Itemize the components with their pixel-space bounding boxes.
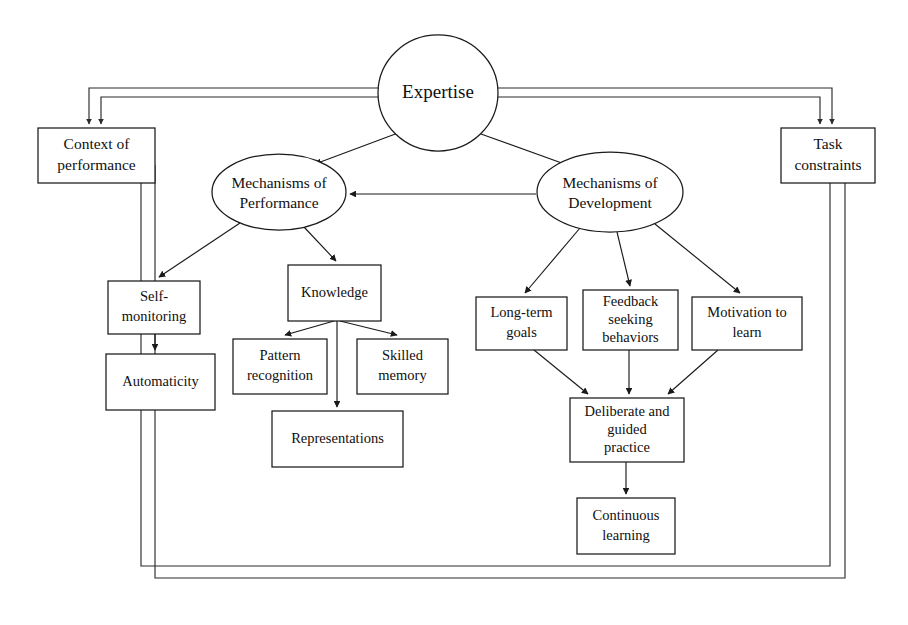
edge-expertise-to-task-outer — [497, 88, 832, 124]
edge-development-to-motivation — [655, 224, 740, 293]
long-term-goals-label-line2: goals — [506, 324, 537, 340]
node-task-constraints[interactable]: Task constraints — [781, 128, 875, 183]
node-self-monitoring[interactable]: Self- monitoring — [108, 281, 200, 334]
diagram-canvas: Expertise Context of performance Task co… — [0, 0, 908, 625]
node-skilled-memory[interactable]: Skilled memory — [357, 339, 448, 394]
task-label-line1: Task — [813, 135, 842, 152]
node-mechanisms-of-performance[interactable]: Mechanisms of Performance — [212, 154, 346, 230]
node-mechanisms-of-development[interactable]: Mechanisms of Development — [537, 152, 683, 232]
skilled-memory-label-line1: Skilled — [382, 347, 424, 363]
edge-knowledge-to-skilledmemory — [340, 321, 397, 335]
expertise-diagram: Expertise Context of performance Task co… — [0, 0, 908, 625]
edge-expertise-to-context-outer — [89, 88, 379, 124]
edge-expertise-to-performance — [315, 133, 398, 164]
motivation-label-line1: Motivation to — [707, 304, 786, 320]
node-pattern-recognition[interactable]: Pattern recognition — [233, 339, 327, 394]
deliberate-practice-label-line2: guided — [607, 421, 647, 437]
edge-development-to-longterm — [525, 228, 580, 293]
deliberate-practice-label-line3: practice — [604, 439, 650, 455]
edge-motivation-to-deliberate — [668, 350, 718, 394]
context-label-line1: Context of — [64, 135, 131, 152]
node-context-of-performance[interactable]: Context of performance — [38, 128, 155, 183]
node-continuous-learning[interactable]: Continuous learning — [577, 498, 675, 554]
deliberate-practice-label-line1: Deliberate and — [585, 403, 671, 419]
context-label-line2: performance — [57, 156, 135, 173]
node-deliberate-and-guided-practice[interactable]: Deliberate and guided practice — [570, 398, 684, 462]
pattern-recognition-label-line1: Pattern — [259, 347, 301, 363]
node-feedback-seeking-behaviors[interactable]: Feedback seeking behaviors — [583, 290, 678, 350]
edge-expertise-to-task-inner — [496, 97, 820, 124]
edge-development-to-feedback — [617, 232, 630, 286]
continuous-learning-label-line1: Continuous — [593, 507, 660, 523]
task-label-line2: constraints — [794, 156, 861, 173]
node-long-term-goals[interactable]: Long-term goals — [476, 297, 567, 350]
automaticity-label: Automaticity — [122, 373, 199, 389]
continuous-learning-label-line2: learning — [602, 527, 650, 543]
node-expertise[interactable]: Expertise — [378, 35, 498, 151]
long-term-goals-label-line1: Long-term — [490, 304, 553, 320]
edge-performance-to-knowledge — [304, 227, 336, 261]
node-knowledge[interactable]: Knowledge — [288, 265, 381, 321]
self-monitoring-label-line2: monitoring — [122, 308, 186, 324]
edge-knowledge-to-pattern — [285, 321, 334, 335]
expertise-label: Expertise — [402, 81, 474, 102]
mechanisms-performance-label-line2: Performance — [239, 194, 318, 211]
node-motivation-to-learn[interactable]: Motivation to learn — [692, 297, 802, 350]
edge-longterm-to-deliberate — [534, 350, 588, 394]
skilled-memory-label-line2: memory — [378, 367, 427, 383]
mechanisms-development-label-line1: Mechanisms of — [562, 174, 658, 191]
feedback-seeking-label-line2: seeking — [608, 311, 652, 327]
mechanisms-performance-ellipse — [212, 154, 346, 230]
pattern-recognition-label-line2: recognition — [247, 367, 314, 383]
feedback-seeking-label-line3: behaviors — [602, 329, 659, 345]
mechanisms-development-ellipse — [537, 152, 683, 232]
node-automaticity[interactable]: Automaticity — [106, 354, 215, 410]
mechanisms-development-label-line2: Development — [568, 194, 652, 211]
feedback-seeking-label-line1: Feedback — [603, 293, 659, 309]
edge-expertise-to-context-inner — [101, 97, 380, 124]
edge-expertise-to-development — [481, 134, 570, 166]
representations-label: Representations — [291, 430, 384, 446]
mechanisms-performance-label-line1: Mechanisms of — [231, 174, 327, 191]
motivation-label-line2: learn — [733, 324, 763, 340]
edge-performance-to-selfmonitoring — [159, 223, 240, 277]
knowledge-label: Knowledge — [301, 284, 368, 300]
self-monitoring-label-line1: Self- — [140, 288, 168, 304]
node-representations[interactable]: Representations — [272, 411, 403, 467]
